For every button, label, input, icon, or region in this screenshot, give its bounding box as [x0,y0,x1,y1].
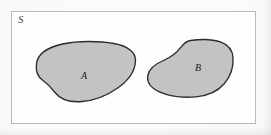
set-label-a: A [81,71,87,81]
set-label-b: B [195,63,201,73]
set-diagram-figure: S A B [0,0,271,135]
set-region-b-shape [148,40,233,98]
set-regions-layer [0,0,271,135]
